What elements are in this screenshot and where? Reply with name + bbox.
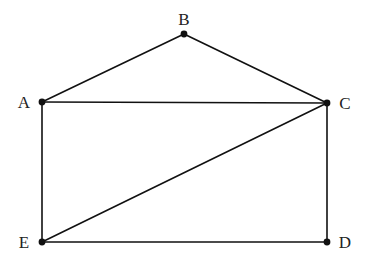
vertex-label-b: B (178, 10, 189, 29)
vertex-a (39, 99, 46, 106)
vertex-c (324, 100, 331, 107)
edges-group (42, 34, 327, 242)
vertex-e (39, 239, 46, 246)
edge-bc (184, 34, 327, 103)
graph-diagram: ABCDE (0, 0, 370, 261)
edge-ab (42, 34, 184, 102)
edge-ac (42, 102, 327, 103)
vertex-label-a: A (18, 93, 31, 112)
vertex-label-e: E (19, 233, 29, 252)
vertex-d (324, 239, 331, 246)
vertex-label-c: C (339, 94, 350, 113)
edge-ec (42, 103, 327, 242)
vertex-b (181, 31, 188, 38)
vertices-group (39, 31, 331, 246)
vertex-label-d: D (339, 233, 351, 252)
labels-group: ABCDE (18, 10, 351, 252)
